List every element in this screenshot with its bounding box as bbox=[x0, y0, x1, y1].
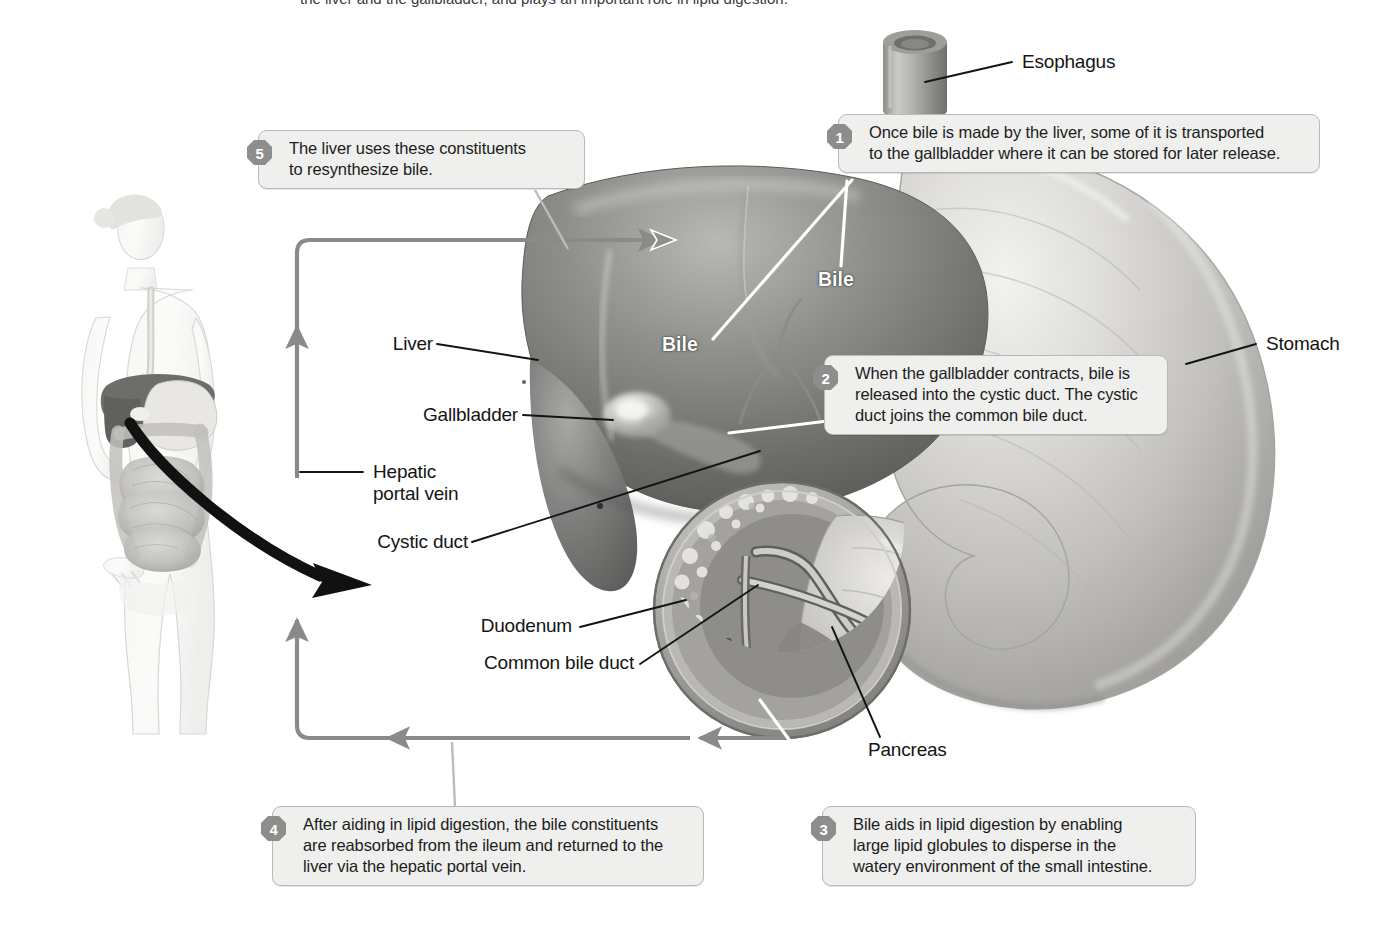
human-body-figure bbox=[82, 195, 217, 734]
esophagus-organ bbox=[883, 30, 947, 121]
diagram-canvas: the liver and the gallbladder, and plays… bbox=[0, 0, 1393, 937]
label-hepatic-portal-vein: Hepatic portal vein bbox=[373, 461, 458, 504]
step-badge-3: 3 bbox=[810, 815, 837, 842]
step-badge-1-number: 1 bbox=[835, 129, 843, 146]
label-cystic-duct: Cystic duct bbox=[313, 531, 468, 553]
callout-step-5[interactable]: 5 The liver uses these constituents to r… bbox=[258, 130, 585, 189]
callout-step-1[interactable]: 1 Once bile is made by the liver, some o… bbox=[838, 114, 1320, 173]
label-gallbladder: Gallbladder bbox=[313, 404, 518, 426]
step-badge-2-number: 2 bbox=[821, 370, 829, 387]
step-badge-1: 1 bbox=[826, 123, 853, 150]
label-bile-upper: Bile bbox=[818, 268, 854, 291]
step-badge-5: 5 bbox=[246, 139, 273, 166]
label-liver: Liver bbox=[313, 333, 433, 355]
label-duodenum: Duodenum bbox=[400, 615, 572, 637]
callout-step-1-text: Once bile is made by the liver, some of … bbox=[869, 122, 1307, 164]
page-heading-partial: the liver and the gallbladder, and plays… bbox=[300, 0, 1120, 7]
step-badge-2: 2 bbox=[812, 364, 839, 391]
label-esophagus: Esophagus bbox=[1022, 51, 1115, 73]
label-bile-lower: Bile bbox=[662, 333, 698, 356]
callout-step-4[interactable]: 4 After aiding in lipid digestion, the b… bbox=[272, 806, 704, 886]
callout-step-2[interactable]: 2 When the gallbladder contracts, bile i… bbox=[824, 355, 1168, 435]
callout-step-2-text: When the gallbladder contracts, bile is … bbox=[855, 363, 1155, 426]
callout-step-4-text: After aiding in lipid digestion, the bil… bbox=[303, 814, 691, 877]
callout-step-3-text: Bile aids in lipid digestion by enabling… bbox=[853, 814, 1183, 877]
callout-step-5-text: The liver uses these constituents to res… bbox=[289, 138, 572, 180]
step-badge-4-number: 4 bbox=[269, 821, 278, 838]
callout-step-3[interactable]: 3 Bile aids in lipid digestion by enabli… bbox=[822, 806, 1196, 886]
step-badge-5-number: 5 bbox=[255, 145, 263, 162]
step-badge-4: 4 bbox=[260, 815, 287, 842]
label-pancreas: Pancreas bbox=[868, 739, 947, 761]
step-badge-3-number: 3 bbox=[819, 821, 827, 838]
label-stomach: Stomach bbox=[1266, 333, 1340, 355]
label-common-bile-duct: Common bile duct bbox=[400, 652, 634, 674]
